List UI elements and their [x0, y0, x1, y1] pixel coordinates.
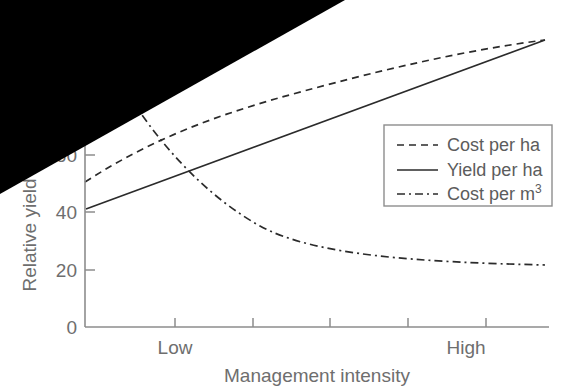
legend-label-cost-per-m3-superscript: 3 [535, 182, 542, 196]
legend: Cost per ha Yield per ha Cost per m3 [384, 125, 552, 206]
chart-figure: 60 40 20 0 Low High Management intensity… [0, 0, 562, 391]
legend-label-cost-per-m3: Cost per m3 [447, 182, 542, 204]
y-tick-label-20: 20 [56, 260, 77, 281]
x-tick-label-high: High [446, 337, 485, 358]
legend-label-cost-per-ha: Cost per ha [447, 135, 541, 155]
x-axis-title: Management intensity [224, 365, 410, 386]
line-chart: 60 40 20 0 Low High Management intensity… [0, 0, 562, 391]
legend-label-cost-per-m3-base: Cost per m [447, 184, 535, 204]
x-tick-label-low: Low [158, 337, 193, 358]
y-axis-title: Relative yield [19, 179, 40, 292]
legend-label-yield-per-ha: Yield per ha [447, 160, 543, 180]
y-tick-label-0: 0 [66, 317, 77, 338]
black-occlusion-triangle [0, 0, 345, 194]
y-tick-label-40: 40 [56, 202, 77, 223]
